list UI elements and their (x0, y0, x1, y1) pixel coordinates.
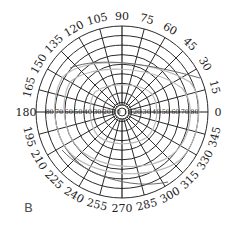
angle-label-150: 150 (28, 52, 50, 77)
angle-label-45: 45 (180, 35, 199, 54)
angle-label-240: 240 (62, 184, 87, 206)
ecc-label-50: 50 (74, 108, 82, 116)
angle-label-105: 105 (85, 10, 109, 28)
ecc-label-40: 40 (152, 108, 160, 116)
ecc-label-10: 10 (123, 108, 131, 116)
ecc-label-40: 40 (84, 108, 92, 116)
ecc-label-30: 30 (143, 108, 151, 116)
spoke-255 (100, 119, 120, 195)
ecc-label-80: 80 (190, 108, 198, 116)
angle-label-195: 195 (20, 125, 38, 149)
isopter-outer (55, 63, 199, 174)
ecc-label-30: 30 (93, 108, 101, 116)
ecc-label-20: 20 (103, 108, 111, 116)
ecc-label-80: 80 (45, 108, 53, 116)
spoke-75 (124, 29, 144, 105)
angle-label-165: 165 (20, 75, 38, 99)
ecc-label-50: 50 (162, 108, 170, 116)
angle-label-0: 0 (215, 106, 222, 119)
angle-label-345: 345 (206, 125, 224, 149)
angle-label-285: 285 (135, 196, 159, 214)
angle-label-30: 30 (196, 55, 214, 74)
ecc-label-60: 60 (65, 108, 73, 116)
ecc-label-20: 20 (133, 108, 141, 116)
angle-label-255: 255 (85, 196, 109, 214)
angle-label-300: 300 (158, 184, 183, 206)
angle-label-120: 120 (62, 18, 87, 40)
polar-visual-field-chart: 0153045607590105120135150165180195210225… (0, 0, 232, 227)
panel-label: B (24, 200, 33, 215)
angle-label-75: 75 (138, 11, 155, 27)
angle-label-270: 270 (112, 202, 133, 215)
angle-label-90: 90 (115, 10, 129, 23)
spoke-195 (39, 114, 115, 134)
ecc-label-60: 60 (171, 108, 179, 116)
ecc-label-70: 70 (181, 108, 189, 116)
spoke-105 (100, 29, 120, 105)
angle-label-210: 210 (28, 148, 50, 173)
ecc-label-70: 70 (55, 108, 63, 116)
angle-label-60: 60 (161, 20, 180, 38)
angle-label-15: 15 (207, 79, 223, 96)
ecc-label-10: 10 (112, 108, 120, 116)
spoke-345 (129, 114, 205, 134)
angle-label-330: 330 (194, 148, 216, 173)
angle-label-180: 180 (16, 106, 37, 119)
spoke-135 (61, 51, 117, 107)
